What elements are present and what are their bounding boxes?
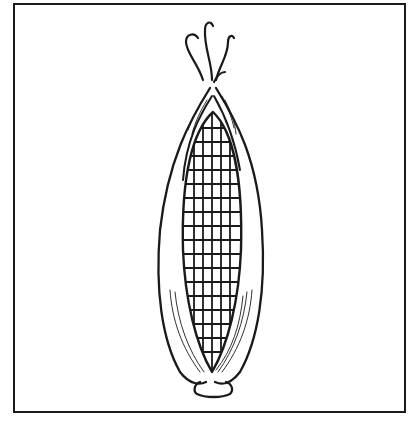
silk xyxy=(186,23,234,82)
husk-right xyxy=(215,88,263,384)
corn-icon xyxy=(0,0,419,430)
